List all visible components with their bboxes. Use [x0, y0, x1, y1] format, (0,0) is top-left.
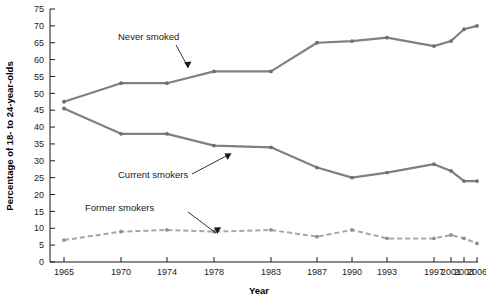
y-tick-label: 20: [34, 190, 44, 200]
x-tick-label: 1990: [342, 267, 362, 277]
annotation-never-smoked-label: Never smoked: [118, 31, 179, 42]
y-tick-label: 75: [34, 4, 44, 14]
x-tick-label: 1965: [54, 267, 74, 277]
data-point: [165, 132, 169, 136]
data-point: [475, 24, 479, 28]
y-tick-label: 65: [34, 38, 44, 48]
y-tick-label: 15: [34, 207, 44, 217]
data-point: [315, 166, 319, 170]
y-tick-label: 45: [34, 105, 44, 115]
data-point: [62, 100, 66, 104]
data-point: [475, 179, 479, 183]
data-point: [462, 236, 466, 240]
data-point: [315, 41, 319, 45]
data-point: [385, 36, 389, 40]
data-point: [432, 236, 436, 240]
chart-container: 051015202530354045505560657075 196519701…: [0, 0, 486, 303]
data-point: [350, 39, 354, 43]
y-tick-label: 40: [34, 122, 44, 132]
x-tick-label: 1987: [307, 267, 327, 277]
data-point: [119, 81, 123, 85]
x-tick-label: 1983: [261, 267, 281, 277]
data-point: [385, 236, 389, 240]
y-tick-label: 10: [34, 223, 44, 233]
y-tick-label: 30: [34, 156, 44, 166]
y-tick-label: 55: [34, 72, 44, 82]
y-axis-title: Percentage of 18- to 24-year-olds: [4, 61, 15, 210]
data-point: [432, 162, 436, 166]
data-point: [462, 27, 466, 31]
y-tick-label: 60: [34, 55, 44, 65]
annotation-former-smokers-label: Former smokers: [85, 202, 154, 213]
data-point: [449, 169, 453, 173]
y-tick-label: 70: [34, 21, 44, 31]
data-point: [269, 228, 273, 232]
annotation-current-smokers-label: Current smokers: [118, 169, 188, 180]
x-tick-label: 2006: [467, 267, 486, 277]
line-chart: 051015202530354045505560657075 196519701…: [0, 0, 486, 303]
data-point: [350, 176, 354, 180]
x-tick-label: 1970: [111, 267, 131, 277]
data-point: [62, 107, 66, 111]
data-point: [269, 70, 273, 74]
x-tick-label: 1978: [204, 267, 224, 277]
x-tick-label: 1974: [157, 267, 177, 277]
data-point: [462, 179, 466, 183]
data-point: [315, 235, 319, 239]
data-point: [385, 171, 389, 175]
data-point: [212, 144, 216, 148]
data-point: [119, 132, 123, 136]
y-tick-label: 50: [34, 89, 44, 99]
data-point: [212, 70, 216, 74]
data-point: [475, 242, 479, 246]
data-point: [432, 44, 436, 48]
data-point: [119, 230, 123, 234]
y-tick-label: 25: [34, 173, 44, 183]
y-tick-label: 5: [39, 240, 44, 250]
data-point: [165, 228, 169, 232]
y-tick-label: 35: [34, 139, 44, 149]
x-axis-title: Year: [249, 285, 269, 296]
data-point: [165, 81, 169, 85]
chart-background: [0, 0, 486, 303]
y-tick-label: 0: [39, 257, 44, 267]
data-point: [62, 238, 66, 242]
data-point: [350, 228, 354, 232]
x-tick-label: 1993: [377, 267, 397, 277]
data-point: [449, 233, 453, 237]
data-point: [449, 39, 453, 43]
data-point: [269, 145, 273, 149]
